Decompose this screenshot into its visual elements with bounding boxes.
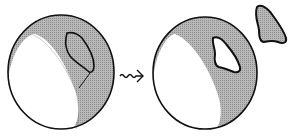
squiggle-icon [120,75,143,78]
diagram [0,0,292,137]
diagram-canvas [0,0,292,137]
sphere-before [0,15,114,137]
transform-arrow [120,70,143,82]
sphere-after [140,17,257,137]
detached-piece [256,6,286,43]
